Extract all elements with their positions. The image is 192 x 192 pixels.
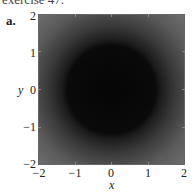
y-tick-label: 1: [22, 46, 36, 61]
y-tick-label: 2: [22, 9, 36, 24]
x-axis-title: x: [109, 178, 114, 192]
x-tick-label: 1: [138, 166, 158, 181]
y-tick: [38, 89, 41, 90]
y-tick: [38, 51, 41, 52]
density-plot: [38, 14, 185, 165]
x-tick-label: 2: [174, 166, 192, 181]
y-tick: [182, 89, 185, 90]
x-tick: [111, 14, 112, 17]
x-tick-label: −1: [65, 166, 85, 181]
x-tick-label: −2: [29, 166, 49, 181]
y-tick-label: 0: [22, 83, 36, 98]
x-tick: [75, 14, 76, 17]
x-tick: [148, 162, 149, 165]
x-tick: [111, 162, 112, 165]
caption: exercise 47.: [2, 0, 64, 8]
y-tick: [38, 127, 41, 128]
y-tick: [182, 127, 185, 128]
y-tick-label: −1: [22, 120, 36, 135]
y-tick: [182, 51, 185, 52]
panel-label: a.: [6, 13, 16, 29]
x-tick: [75, 162, 76, 165]
x-tick: [148, 14, 149, 17]
y-axis-title: y: [18, 83, 23, 98]
